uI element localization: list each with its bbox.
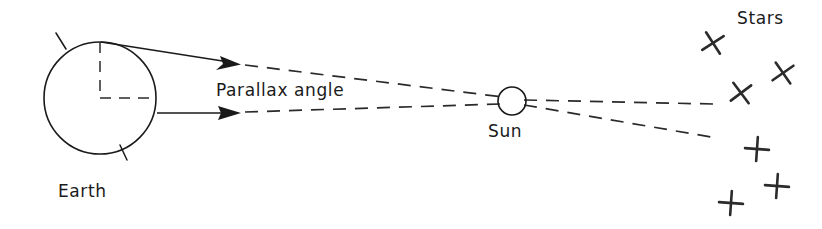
upper-sight-ray-group — [101, 42, 713, 104]
lower-sight-ray-group — [157, 104, 711, 137]
star-3-icon — [731, 83, 751, 103]
star-5-icon — [764, 173, 790, 199]
stars-group: Stars — [702, 8, 793, 216]
parallax-diagram: Earth Parallax angle Sun Stars — [0, 0, 822, 229]
stars-label: Stars — [737, 8, 784, 28]
star-4-icon — [744, 136, 770, 162]
sun-circle — [498, 87, 526, 115]
parallax-angle-label: Parallax angle — [216, 80, 344, 100]
earth-group: Earth — [44, 33, 157, 201]
sun-label: Sun — [488, 121, 522, 141]
star-1-icon — [702, 32, 723, 53]
upper-ray-arrowhead-icon — [216, 56, 241, 70]
star-2-icon — [773, 63, 794, 84]
lower-ray-arrowhead-icon — [218, 106, 241, 120]
earth-label: Earth — [58, 181, 107, 201]
upper-ray-dashed-to-star — [524, 100, 713, 104]
upper-ray-solid-segment — [101, 42, 229, 62]
earth-upper-tick-icon — [56, 33, 66, 49]
star-6-icon — [718, 190, 744, 216]
lower-ray-dashed-to-star — [524, 105, 711, 137]
parallax-diagram-canvas: Earth Parallax angle Sun Stars — [0, 0, 822, 229]
lower-ray-dashed-to-sun — [245, 104, 500, 112]
